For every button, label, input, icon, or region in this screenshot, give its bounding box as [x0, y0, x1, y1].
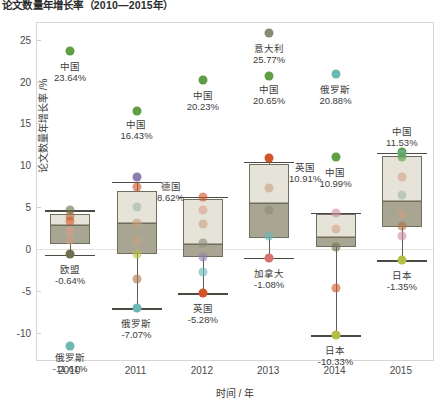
annotation-value: -7.07%: [121, 329, 151, 340]
x-tick-label: 2010: [58, 365, 80, 376]
point-annotation: 中国20.65%: [253, 84, 285, 106]
data-point: [132, 304, 141, 313]
data-point: [66, 226, 75, 235]
annotation-country: 中国: [253, 84, 285, 95]
data-point: [397, 152, 406, 161]
annotation-country: 英国: [188, 303, 218, 314]
point-annotation: 中国16.43%: [120, 119, 152, 141]
data-point: [66, 250, 75, 259]
y-tick-label: 0: [25, 244, 31, 255]
annotation-country: 日本: [318, 345, 353, 356]
plot-area: 论文数量年增长率 /% 2520151050-5-10中国23.64%欧盟-0.…: [36, 22, 434, 361]
x-tick-label: 2015: [390, 365, 412, 376]
data-point: [265, 206, 274, 215]
data-point: [132, 219, 141, 228]
data-point: [265, 232, 274, 241]
data-point: [397, 173, 406, 182]
annotation-country: 中国: [187, 90, 219, 101]
data-point: [397, 256, 406, 265]
point-annotation: 俄罗斯-7.07%: [121, 318, 151, 340]
annotation-country: 中国: [120, 119, 152, 130]
annotation-country: 意大利: [253, 43, 285, 54]
point-annotation: 德国8.62%: [157, 181, 184, 203]
data-point: [132, 203, 141, 212]
annotation-value: 20.88%: [319, 95, 351, 106]
data-point: [132, 183, 141, 192]
annotation-country: 欧盟: [55, 264, 85, 275]
annotation-value: -5.28%: [188, 314, 218, 325]
point-annotation: 日本-1.35%: [387, 270, 417, 292]
y-tick-label: 10: [20, 160, 31, 171]
data-point: [331, 283, 340, 292]
data-point: [132, 172, 141, 181]
data-point: [66, 47, 75, 56]
annotation-value: 25.77%: [253, 54, 285, 65]
median-line: [382, 201, 422, 202]
annotation-country: 加拿大: [254, 268, 284, 279]
data-point: [265, 72, 274, 81]
annotation-country: 俄罗斯: [121, 318, 151, 329]
data-point: [132, 250, 141, 259]
data-point: [331, 243, 340, 252]
data-point: [198, 289, 207, 298]
data-point: [132, 236, 141, 245]
annotation-country: 俄罗斯: [319, 84, 351, 95]
data-point: [198, 193, 207, 202]
point-annotation: 中国11.53%: [386, 126, 418, 148]
data-point: [397, 209, 406, 218]
point-annotation: 俄罗斯20.88%: [319, 84, 351, 106]
data-point: [331, 224, 340, 233]
annotation-value: 10.99%: [319, 178, 351, 189]
annotation-value: 20.65%: [253, 95, 285, 106]
data-point: [331, 209, 340, 218]
data-point: [331, 153, 340, 162]
data-point: [198, 268, 207, 277]
data-point: [132, 107, 141, 116]
annotation-value: 16.43%: [120, 130, 152, 141]
annotation-value: 8.62%: [157, 192, 184, 203]
data-point: [198, 75, 207, 84]
x-tick-label: 2011: [125, 365, 147, 376]
data-point: [265, 153, 274, 162]
x-tick-label: 2013: [257, 365, 279, 376]
annotation-country: 中国: [54, 61, 86, 72]
data-point: [265, 254, 274, 263]
point-annotation: 欧盟-0.64%: [55, 264, 85, 286]
x-tick-label: 2012: [191, 365, 213, 376]
data-point: [198, 253, 207, 262]
point-annotation: 加拿大-1.08%: [254, 268, 284, 290]
annotation-country: 德国: [157, 181, 184, 192]
annotation-country: 英国: [289, 162, 321, 173]
data-point: [397, 231, 406, 240]
point-annotation: 英国-5.28%: [188, 303, 218, 325]
annotation-country: 中国: [319, 167, 351, 178]
y-tick-label: 25: [20, 34, 31, 45]
data-point: [198, 206, 207, 215]
data-point: [66, 235, 75, 244]
data-point: [331, 331, 340, 340]
data-point: [265, 29, 274, 38]
data-point: [265, 183, 274, 192]
annotation-value: 10.91%: [289, 173, 321, 184]
point-annotation: 意大利25.77%: [253, 43, 285, 65]
y-tick-label: 5: [25, 202, 31, 213]
data-point: [331, 70, 340, 79]
data-point: [397, 191, 406, 200]
y-tick-label: 15: [20, 118, 31, 129]
y-tick-label: -5: [22, 285, 31, 296]
annotation-value: 20.23%: [187, 101, 219, 112]
data-point: [66, 216, 75, 225]
point-annotation: 中国10.99%: [319, 167, 351, 189]
chart-root: 论文数量年增长率（2010—2015年） 论文数量年增长率 /% 2520151…: [0, 0, 440, 407]
y-tick-label: -10: [17, 327, 31, 338]
point-annotation: 中国23.64%: [54, 61, 86, 83]
data-point: [132, 275, 141, 284]
x-tick-label: 2014: [323, 365, 345, 376]
point-annotation: 英国10.91%: [289, 162, 321, 184]
annotation-value: -1.08%: [254, 279, 284, 290]
annotation-value: 23.64%: [54, 72, 86, 83]
data-point: [198, 219, 207, 228]
annotation-country: 日本: [387, 270, 417, 281]
annotation-value: -1.35%: [387, 281, 417, 292]
annotation-value: -0.64%: [55, 275, 85, 286]
